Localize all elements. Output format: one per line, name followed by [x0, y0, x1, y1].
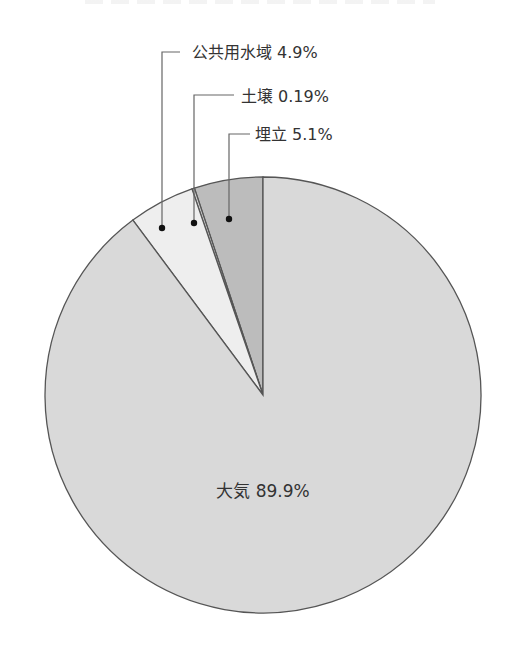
- marker-dot-soil: [191, 220, 197, 226]
- pie-chart: 公共用水域 4.9% 土壌 0.19% 埋立 5.1% 大気 89.9%: [0, 0, 508, 650]
- label-landfill: 埋立 5.1%: [255, 125, 333, 144]
- pie-slices: [45, 177, 481, 613]
- marker-dot-water: [159, 225, 165, 231]
- label-soil: 土壌 0.19%: [241, 87, 329, 106]
- pie-slice-3: [45, 177, 481, 613]
- marker-dot-landfill: [226, 216, 232, 222]
- label-water: 公共用水域 4.9%: [192, 43, 318, 62]
- label-air: 大気 89.9%: [216, 481, 309, 501]
